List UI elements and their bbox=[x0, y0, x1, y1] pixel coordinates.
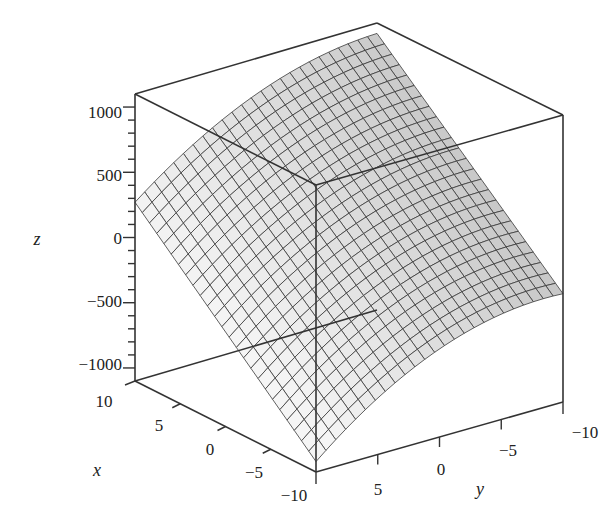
x-tick-0: 0 bbox=[206, 440, 215, 459]
y-tick-0: 0 bbox=[437, 460, 446, 479]
x-tick bbox=[172, 404, 180, 408]
x-tick-neg5: −5 bbox=[245, 463, 263, 482]
corner-tick bbox=[125, 381, 135, 385]
x-tick bbox=[263, 449, 271, 453]
z-tick-1000: 1000 bbox=[88, 103, 122, 122]
surface-plot: 1000 500 0 −500 −1000 10 5 0 −5 −10 5 0 … bbox=[0, 0, 608, 526]
y-tick-5: 5 bbox=[374, 480, 383, 499]
x-tick bbox=[218, 427, 226, 431]
x-tick-5: 5 bbox=[155, 416, 164, 435]
z-tick-neg1000: −1000 bbox=[78, 355, 122, 374]
z-tick-neg500: −500 bbox=[87, 292, 122, 311]
z-axis-label: z bbox=[32, 229, 40, 249]
y-tick-neg5: −5 bbox=[499, 441, 517, 460]
x-tick-neg10: −10 bbox=[281, 486, 308, 505]
x-tick-10: 10 bbox=[96, 392, 113, 411]
surface-mesh bbox=[135, 33, 563, 461]
z-tick-0: 0 bbox=[114, 229, 123, 248]
y-tick-neg10: −10 bbox=[572, 423, 599, 442]
y-axis-label: y bbox=[474, 479, 484, 499]
x-axis-label: x bbox=[92, 460, 101, 480]
z-tick-500: 500 bbox=[97, 166, 123, 185]
